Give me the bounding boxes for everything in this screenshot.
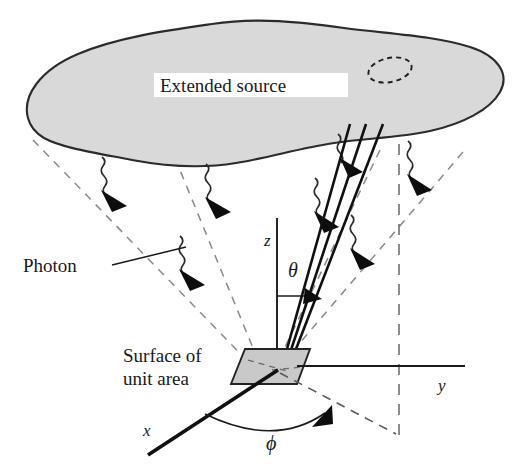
photon-arrow-5 — [350, 215, 375, 270]
photon-leader-line — [112, 247, 186, 265]
y-axis-label: y — [436, 376, 446, 395]
beam-edge-left — [280, 124, 350, 374]
photon-squiggle-2 — [205, 164, 211, 202]
photon-arrow-6 — [407, 141, 432, 196]
photon-arrow-3 — [179, 236, 205, 291]
photon-squiggle-5 — [350, 215, 356, 253]
phi-arc — [205, 413, 325, 431]
photon-label: Photon — [23, 255, 77, 276]
photon-arrow-2 — [205, 164, 231, 219]
phi-arrowhead — [312, 405, 333, 427]
z-axis-label: z — [263, 231, 271, 250]
figure-root: Extended source — [0, 0, 519, 471]
photon-squiggle-3 — [179, 236, 185, 274]
photon-squiggle-6 — [407, 141, 413, 179]
photon-squiggle-4 — [314, 178, 320, 216]
photon-arrowhead-3 — [179, 269, 205, 291]
extended-source-diagram: Extended source — [0, 0, 519, 471]
extended-source-label: Extended source — [160, 75, 286, 96]
photon-squiggle-1 — [101, 157, 107, 195]
phi-label: ϕ — [266, 432, 276, 455]
phi-angle-indicator: ϕ — [205, 405, 333, 455]
cone-edge-inner-left — [175, 158, 262, 370]
photon-arrowhead-2 — [205, 197, 231, 219]
beam-projection-dashed — [280, 373, 396, 434]
theta-angle-indicator: θ — [277, 259, 322, 304]
surface-label-line-1: Surface of — [123, 345, 202, 366]
beam-edge-right — [286, 124, 383, 375]
theta-label: θ — [288, 259, 298, 281]
photon-arrowhead-1 — [101, 190, 127, 212]
photon-arrowhead-6 — [407, 174, 432, 196]
surface-label-line-2: unit area — [123, 368, 190, 389]
beam-axis-center — [283, 124, 366, 374]
photon-arrow-1 — [101, 157, 127, 212]
x-axis-label: x — [142, 421, 151, 440]
